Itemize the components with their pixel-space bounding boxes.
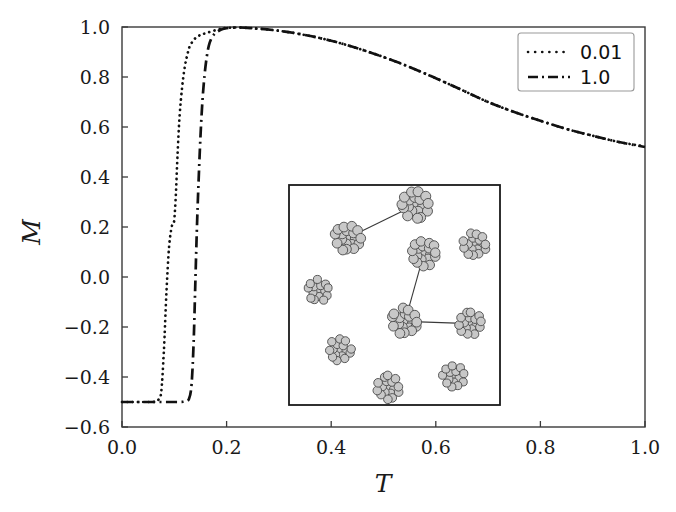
cluster-bead	[431, 248, 440, 257]
cluster-bead	[347, 345, 355, 353]
legend-box[interactable]: 0.01 1.0	[518, 33, 634, 91]
y-tick-label: 0.0	[80, 266, 110, 288]
cluster-bead	[307, 294, 315, 302]
cluster-bead	[332, 238, 342, 248]
x-axis-title: T	[375, 469, 394, 498]
y-tick-label: −0.6	[64, 416, 110, 438]
legend-label-1: 1.0	[580, 66, 610, 88]
cluster-bead	[356, 233, 366, 243]
cluster-bead	[341, 354, 349, 362]
x-tick-label: 0.8	[525, 436, 555, 458]
cluster-bead	[341, 337, 349, 345]
cluster-bead	[324, 284, 332, 292]
x-tick-label: 0.4	[316, 436, 346, 458]
y-tick-label: −0.4	[64, 366, 110, 388]
cluster-bead	[394, 382, 403, 391]
cluster-bead	[448, 362, 456, 370]
cluster-bead	[416, 237, 425, 246]
cluster-bead	[320, 296, 328, 304]
y-tick-label: 0.4	[80, 166, 110, 188]
cluster-bead	[412, 317, 422, 327]
magnetization-chart: 0.00.20.40.60.81.0 1.00.80.60.40.20.0−0.…	[0, 0, 676, 512]
cluster-bead	[391, 374, 400, 383]
cluster-bead	[328, 338, 336, 346]
inset-snapshot	[289, 185, 500, 405]
cluster-bead	[313, 275, 321, 283]
y-tick-label: 0.6	[80, 116, 110, 138]
x-tick-label: 1.0	[630, 436, 660, 458]
x-tick-label: 0.0	[107, 436, 137, 458]
legend-label-0: 0.01	[580, 41, 622, 63]
cluster-bead	[459, 237, 468, 246]
cluster-bead	[477, 317, 486, 326]
y-tick-label: 1.0	[80, 16, 110, 38]
cluster-bead	[389, 321, 399, 331]
cluster-bead	[466, 308, 475, 317]
y-axis-title: M	[17, 218, 46, 246]
y-tick-label: 0.8	[80, 66, 110, 88]
cluster-bead	[460, 370, 468, 378]
x-tick-label: 0.6	[421, 436, 451, 458]
cluster-bead	[423, 198, 433, 208]
cluster-bead	[443, 379, 451, 387]
cluster-bead	[306, 280, 314, 288]
cluster-bead	[325, 346, 333, 354]
x-tick-label: 0.2	[211, 436, 241, 458]
y-tick-label: 0.2	[80, 216, 110, 238]
cluster-bead	[389, 309, 399, 319]
cluster-bead	[413, 213, 423, 223]
y-tick-label: −0.2	[64, 316, 110, 338]
figure-panel: 0.00.20.40.60.81.0 1.00.80.60.40.20.0−0.…	[0, 0, 676, 512]
cluster-bead	[481, 240, 490, 249]
